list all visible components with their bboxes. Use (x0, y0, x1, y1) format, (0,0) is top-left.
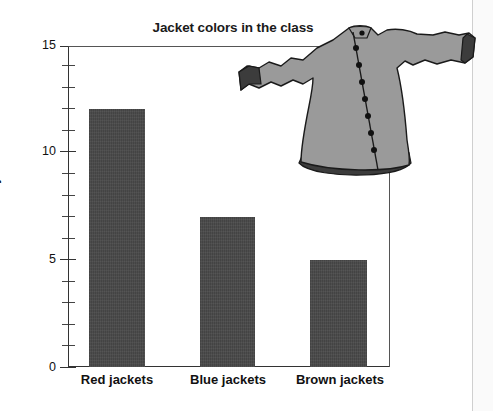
x-tick-label-brown-jackets: Brown jackets (286, 372, 394, 387)
y-tick-label-10: 10 (20, 144, 56, 158)
jacket-collar (349, 27, 371, 39)
y-tick-label-15: 15 (20, 38, 56, 52)
chart-page: Jacket colors in the class Number of jac… (0, 0, 493, 411)
y-axis-title: Number of jackets (0, 110, 1, 280)
x-tick-label-blue-jackets: Blue jackets (180, 372, 276, 387)
y-tick-label-5: 5 (20, 252, 56, 266)
y-tick-label-0: 0 (20, 360, 56, 374)
y-tick-major-0 (60, 367, 76, 368)
jacket-button-8 (359, 30, 364, 35)
chart-title: Jacket colors in the class (118, 20, 348, 35)
page-edge-margin (473, 0, 493, 411)
bar-brown-jackets (310, 260, 367, 367)
jacket-connector-line (389, 170, 390, 367)
bar-red-jackets (89, 109, 145, 367)
x-tick-label-red-jackets: Red jackets (69, 372, 165, 387)
bar-blue-jackets (200, 217, 255, 367)
